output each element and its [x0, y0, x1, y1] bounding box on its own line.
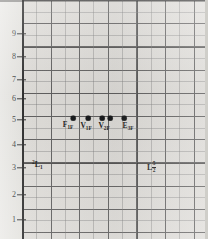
point-label-sub: 1F: [67, 124, 73, 130]
y-tick-8: [17, 56, 26, 57]
y-axis-label-1: 1: [2, 216, 16, 224]
fraction-five-halves: 52: [152, 161, 155, 173]
y-tick-7: [17, 79, 26, 80]
point-label-e3f: E3F: [123, 122, 134, 131]
y-tick-1: [17, 219, 26, 220]
point-label-v2f: V2F: [98, 122, 109, 131]
fraction-denominator: 2: [152, 168, 155, 174]
term-symbol-right: L52: [147, 161, 156, 173]
y-tick-4: [17, 144, 26, 145]
y-tick-3: [17, 167, 26, 168]
y-axis-label-8: 8: [2, 53, 16, 61]
scan-top-edge: [0, 0, 208, 2]
y-axis-label-3: 3: [2, 164, 16, 172]
y-tick-6: [17, 98, 26, 99]
y-axis-label-5: 5: [2, 116, 16, 124]
data-point: [86, 116, 91, 121]
term-left-subscript: 1: [40, 164, 43, 170]
point-label-sub: 3F: [128, 125, 134, 131]
y-axis-label-2: 2: [2, 191, 16, 199]
point-label-f1f: F1F: [63, 121, 73, 130]
y-tick-2: [17, 194, 26, 195]
y-axis-label-9: 9: [2, 30, 16, 38]
data-point: [122, 116, 127, 121]
data-point: [100, 116, 105, 121]
scan-right-edge: [205, 0, 208, 239]
point-label-sub: 2F: [104, 125, 110, 131]
y-axis-label-4: 4: [2, 141, 16, 149]
grid-paper-area: [22, 0, 208, 239]
data-point: [108, 116, 113, 121]
term-symbol-left: 2L1: [32, 160, 43, 170]
y-tick-5: [17, 119, 26, 120]
y-axis-label-6: 6: [2, 95, 16, 103]
scanned-graph-figure: 9 8 7 6 5 4 3 2 1 F1F V1F V2F E3F 2L1 L5…: [0, 0, 208, 239]
point-label-v1f: V1F: [80, 122, 91, 131]
point-label-sub: 1F: [86, 125, 92, 131]
y-tick-9: [17, 33, 26, 34]
data-point: [71, 116, 76, 121]
y-axis-label-7: 7: [2, 76, 16, 84]
